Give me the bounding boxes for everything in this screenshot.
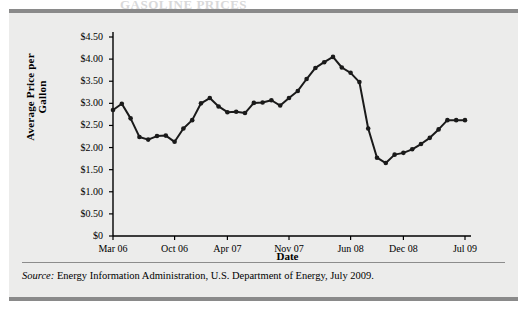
data-point [304,77,309,82]
data-point [322,60,327,65]
x-tick-label: Jun 08 [321,244,381,254]
data-point [348,71,353,76]
source-text: Energy Information Administration, U.S. … [57,270,374,281]
y-tick-label: $0 [57,231,103,241]
data-point [243,111,248,116]
data-point [190,118,195,123]
data-point [199,101,204,106]
data-point [137,135,142,140]
data-point [340,65,345,70]
data-point [181,126,186,131]
data-point [313,66,318,71]
data-point [410,147,415,152]
data-point [278,103,283,108]
x-tick-label: Jul 09 [435,244,495,254]
data-point [260,100,265,105]
data-point [146,137,151,142]
x-tick-label: Dec 08 [373,244,433,254]
data-point [234,109,239,114]
y-tick-label: $4.50 [57,32,103,42]
y-tick-label: $0.50 [57,209,103,219]
data-point [296,89,301,94]
y-tick-label: $3.00 [57,98,103,108]
line-chart [0,0,527,314]
y-axis-title: Average Price per Gallon [24,37,48,157]
source-label: Source: [22,270,54,281]
source-note: Source: Energy Information Administratio… [22,270,492,281]
data-point [428,136,433,141]
data-point [111,108,116,113]
data-point [384,161,389,166]
data-point [128,116,133,121]
data-point [208,96,213,101]
data-point [269,98,274,103]
x-tick-label: Oct 06 [145,244,205,254]
data-point [454,118,459,123]
y-tick-label: $2.50 [57,120,103,130]
data-point [252,101,257,106]
data-point [155,134,160,139]
y-tick-label: $1.00 [57,187,103,197]
data-point [401,151,406,156]
data-point [357,80,362,85]
data-point [436,127,441,132]
y-tick-label: $2.00 [57,143,103,153]
data-point [419,142,424,147]
source-separator [22,262,505,263]
data-point [375,155,380,160]
data-point [463,118,468,123]
data-point [366,126,371,131]
gasoline-price-figure: GASOLINE PRICES Average Price per Gallon… [0,0,527,314]
x-tick-label: Apr 07 [197,244,257,254]
y-tick-label: $1.50 [57,165,103,175]
y-tick-label: $3.50 [57,76,103,86]
data-point [164,133,169,138]
data-point [216,104,221,109]
data-point [392,152,397,157]
data-point [331,55,336,60]
data-point [445,118,450,123]
x-tick-label: Nov 07 [259,244,319,254]
data-point [120,101,125,106]
data-point [287,96,292,101]
data-point [172,140,177,145]
y-tick-label: $4.00 [57,54,103,64]
x-tick-label: Mar 06 [83,244,143,254]
data-point [225,110,230,115]
